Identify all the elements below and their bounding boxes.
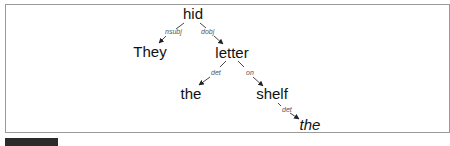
edge-dobj: dobj — [200, 23, 223, 44]
relation-label-det: det — [282, 106, 293, 113]
edge-arrow — [214, 36, 223, 44]
node-the: the — [181, 85, 202, 102]
node-shelf: shelf — [256, 85, 289, 102]
edge-line — [220, 61, 226, 67]
figure-caption-label — [5, 138, 58, 146]
relation-label-dobj: dobj — [201, 28, 215, 36]
node-the-italic: the — [300, 116, 321, 133]
edge-arrow — [199, 77, 210, 85]
relation-label-nsubj: nsubj — [165, 28, 182, 36]
relation-label-det: det — [211, 69, 222, 76]
edge-on: on — [238, 61, 263, 86]
edge-det-2: det — [278, 103, 299, 119]
node-hid: hid — [183, 5, 203, 22]
node-letter: letter — [215, 44, 248, 61]
edge-line — [238, 61, 244, 67]
edge-det-1: det — [199, 61, 226, 85]
edge-arrow — [159, 36, 166, 43]
relation-label-on: on — [246, 69, 254, 76]
node-they: They — [133, 43, 167, 60]
edge-nsubj: nsubj — [159, 23, 184, 43]
edge-line — [278, 103, 281, 106]
edge-arrow — [290, 113, 299, 119]
